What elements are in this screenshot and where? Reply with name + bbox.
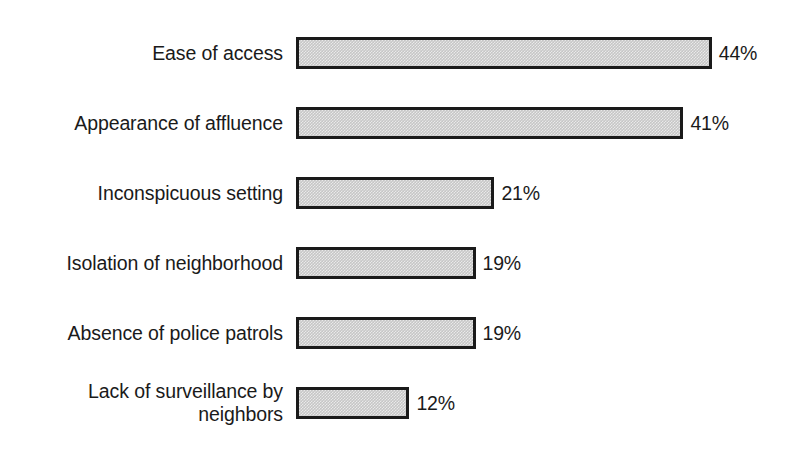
bar[interactable] <box>296 177 494 209</box>
bar[interactable] <box>296 247 476 279</box>
bar[interactable] <box>296 317 476 349</box>
category-label: Inconspicuous setting <box>0 182 283 205</box>
category-label: Isolation of neighborhood <box>0 252 283 275</box>
category-label: Appearance of affluence <box>0 112 283 135</box>
bar-group: 19% <box>296 246 521 280</box>
plot-area: Ease of access 44% Appearance of affluen… <box>0 0 791 470</box>
bar-value-label: 12% <box>416 392 454 415</box>
bar-row: Lack of surveillance by neighbors 12% <box>0 386 791 420</box>
bar-group: 12% <box>296 386 455 420</box>
bar-value-label: 41% <box>690 112 728 135</box>
bar-row: Isolation of neighborhood 19% <box>0 246 791 280</box>
bar[interactable] <box>296 387 409 419</box>
bar-row: Inconspicuous setting 21% <box>0 176 791 210</box>
bar-row: Absence of police patrols 19% <box>0 316 791 350</box>
bar-row: Appearance of affluence 41% <box>0 106 791 140</box>
bar-group: 21% <box>296 176 540 210</box>
bar-chart: Ease of access 44% Appearance of affluen… <box>0 0 791 470</box>
bar-value-label: 21% <box>501 182 539 205</box>
bar-group: 41% <box>296 106 729 140</box>
bar[interactable] <box>296 37 712 69</box>
category-label: Absence of police patrols <box>0 322 283 345</box>
bar-value-label: 44% <box>719 42 757 65</box>
category-label: Lack of surveillance by neighbors <box>0 380 283 426</box>
bar-group: 44% <box>296 36 757 70</box>
bar-row: Ease of access 44% <box>0 36 791 70</box>
bar-value-label: 19% <box>483 252 521 275</box>
bar[interactable] <box>296 107 683 139</box>
category-label: Ease of access <box>0 42 283 65</box>
bar-group: 19% <box>296 316 521 350</box>
bar-value-label: 19% <box>483 322 521 345</box>
